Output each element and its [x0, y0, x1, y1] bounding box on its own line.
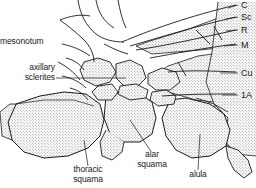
vein-label-first-anal: 1A	[241, 91, 252, 100]
thoracic-squama-lobe	[0, 92, 104, 158]
vein-label-radius: R	[241, 26, 248, 35]
anatomical-figure: mesonotum axillary sclerites thoracic sq…	[0, 0, 256, 188]
vein-label-cubitus: Cu	[241, 69, 253, 78]
vein-label-subcosta: Sc	[241, 13, 252, 22]
label-mesonotum: mesonotum	[0, 37, 44, 47]
label-axillary-sclerites-line2: sclerites	[0, 73, 55, 83]
vein-label-media: M	[241, 41, 249, 50]
axillary-sclerites-group	[80, 58, 180, 106]
label-alula: alula	[172, 170, 224, 180]
vein-label-costa: C	[241, 1, 248, 10]
label-alar-squama-line2: squama	[122, 160, 182, 170]
label-thoracic-squama-line2: squama	[48, 175, 128, 185]
